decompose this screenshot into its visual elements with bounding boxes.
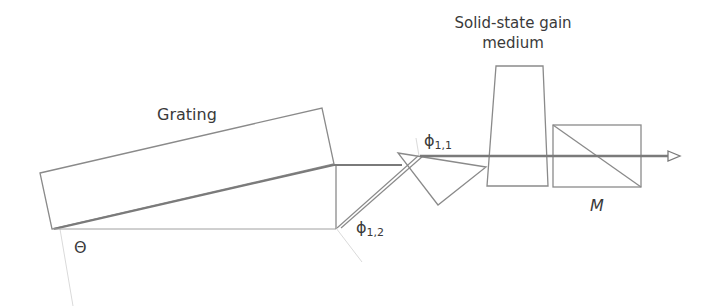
- mirror-m-label: M: [590, 196, 604, 215]
- phi-1-1-base: ϕ: [424, 131, 435, 150]
- gain-medium: [487, 66, 548, 186]
- theta-label: Θ: [74, 238, 87, 257]
- grating-normal-line: [60, 229, 73, 306]
- phi-1-1-label: ϕ1,1: [424, 131, 452, 152]
- gain-medium-label-line2: medium: [443, 33, 583, 53]
- grating-beam: [54, 165, 334, 229]
- arrow-head-icon: [668, 151, 680, 161]
- gain-medium-label: Solid-state gain medium: [443, 13, 583, 53]
- grating-label: Grating: [157, 105, 217, 125]
- phi-1-1-sub: 1,1: [435, 139, 453, 152]
- grating-body: [40, 108, 334, 229]
- phi-1-2-base: ϕ: [356, 218, 367, 237]
- laser-cavity-diagram: Grating Solid-state gain medium ϕ1,1 ϕ1,…: [0, 0, 718, 306]
- phi-1-2-sub: 1,2: [367, 226, 385, 239]
- diagram-svg: [0, 0, 718, 306]
- gain-medium-label-line1: Solid-state gain: [443, 13, 583, 33]
- prism: [398, 153, 486, 205]
- phi-1-2-label: ϕ1,2: [356, 218, 384, 239]
- prism-normal-line: [416, 138, 419, 156]
